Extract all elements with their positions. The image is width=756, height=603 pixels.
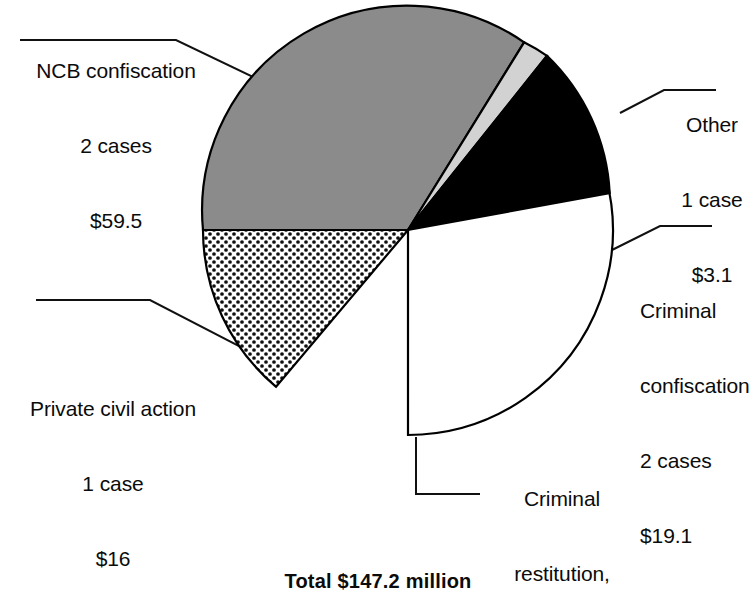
- label-other-cases: 1 case: [672, 187, 752, 212]
- label-ncb-confiscation: NCB confiscation 2 cases $59.5: [6, 8, 226, 283]
- label-private-civil-action: Private civil action 1 case $16: [4, 346, 222, 603]
- leader-line-criminal-restitution: [416, 437, 480, 494]
- label-criminal-restitution-title-1: Criminal: [476, 486, 648, 511]
- label-other-title: Other: [672, 112, 752, 137]
- total-caption: Total $147.2 million: [0, 570, 756, 593]
- label-ncb-title: NCB confiscation: [6, 58, 226, 83]
- label-private-civil-action-value: $16: [4, 546, 222, 571]
- label-criminal-confiscation: Criminal confiscation 2 cases $19.1: [640, 248, 756, 598]
- label-private-civil-action-title: Private civil action: [4, 396, 222, 421]
- pie-slice-private-civil-action: [203, 230, 408, 387]
- label-ncb-cases: 2 cases: [6, 133, 226, 158]
- label-criminal-confiscation-title-1: Criminal: [640, 298, 756, 323]
- label-private-civil-action-cases: 1 case: [4, 471, 222, 496]
- pie-slices: [202, 6, 613, 435]
- label-criminal-confiscation-value: $19.1: [640, 523, 756, 548]
- label-criminal-confiscation-title-2: confiscation: [640, 373, 756, 398]
- label-ncb-value: $59.5: [6, 208, 226, 233]
- label-criminal-confiscation-cases: 2 cases: [640, 448, 756, 473]
- pie-chart: NCB confiscation 2 cases $59.5 Other 1 c…: [0, 0, 756, 603]
